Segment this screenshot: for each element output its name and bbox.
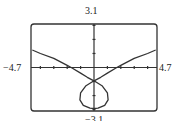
right-branch-curve [94, 50, 156, 81]
graph-plot [0, 0, 175, 121]
left-branch-curve [32, 50, 94, 81]
axes [31, 24, 157, 111]
